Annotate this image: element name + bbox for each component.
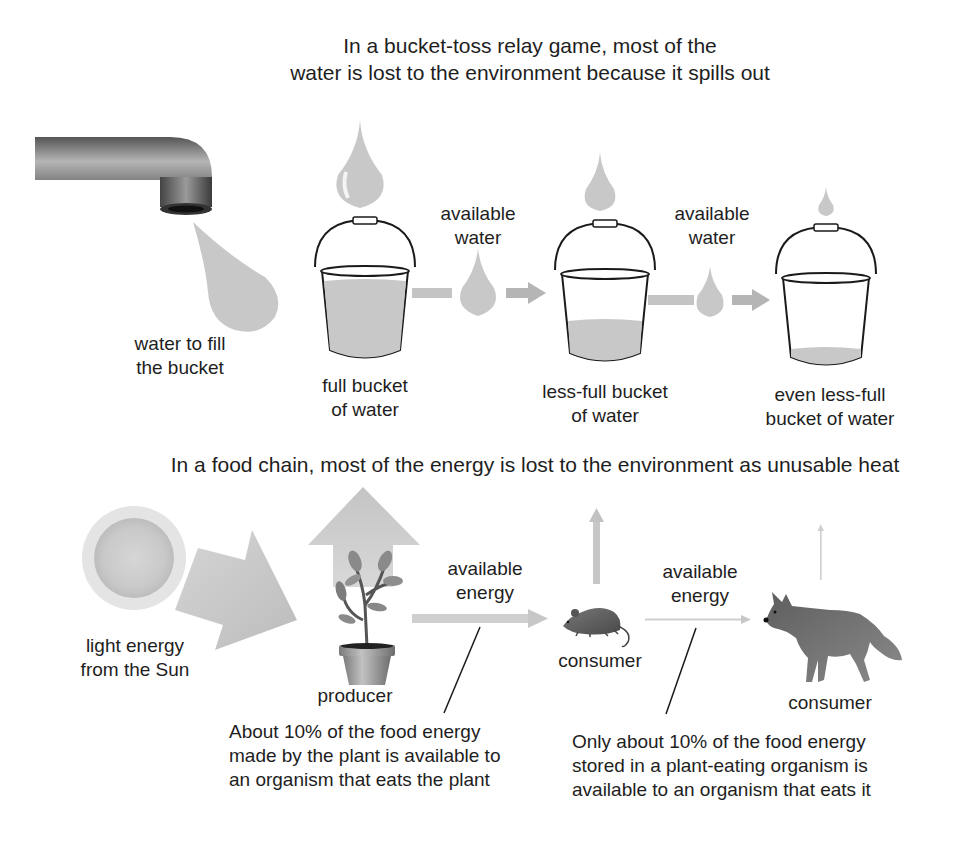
note1-line3: an organism that eats the plant <box>229 768 549 792</box>
transfer-arrow-icon <box>646 265 776 325</box>
transfer2-label-line2: water <box>652 226 772 250</box>
energy-title: In a food chain, most of the energy is l… <box>140 452 930 478</box>
water-title-line2: water is lost to the environment because… <box>260 60 800 86</box>
bucket1-label-line2: of water <box>290 398 440 422</box>
faucet-label-line1: water to fill <box>110 332 250 356</box>
faucet-icon <box>30 125 250 225</box>
consumer2-label: consumer <box>775 691 885 715</box>
pointer-line <box>664 626 704 716</box>
energy-transfer-arrow-icon <box>412 609 552 629</box>
energy-transfer2-label-line1: available <box>645 560 755 584</box>
water-drop-icon <box>330 120 390 210</box>
bucket3-label-line2: bucket of water <box>745 407 915 431</box>
full-bucket-icon <box>310 215 420 375</box>
transfer2-label-line1: available <box>652 202 772 226</box>
sun-label-line1: light energy <box>70 634 200 658</box>
bucket3-label-line1: even less-full <box>745 383 915 407</box>
energy-transfer1-label-line2: energy <box>430 581 540 605</box>
energy-transfer-arrow-icon <box>645 614 755 626</box>
water-drop-icon <box>190 222 290 342</box>
bucket2-label-line2: of water <box>515 404 695 428</box>
note1-line2: made by the plant is available to <box>229 744 549 768</box>
heat-loss-arrow-icon <box>815 522 827 582</box>
wolf-icon <box>760 580 910 690</box>
transfer-arrow-icon <box>410 248 550 318</box>
water-drop-icon <box>816 187 836 217</box>
sun-label-line2: from the Sun <box>70 658 200 682</box>
transfer1-label-line2: water <box>418 226 538 250</box>
note2-line2: stored in a plant-eating organism is <box>572 754 912 778</box>
note2-line1: Only about 10% of the food energy <box>572 730 912 754</box>
plant-icon <box>325 535 415 685</box>
less-full-bucket-icon <box>550 218 660 378</box>
pointer-line <box>440 625 480 715</box>
bucket1-label-line1: full bucket <box>290 374 440 398</box>
consumer1-label: consumer <box>545 649 655 673</box>
energy-transfer1-label-line1: available <box>430 557 540 581</box>
transfer1-label-line1: available <box>418 202 538 226</box>
note1-line1: About 10% of the food energy <box>229 720 549 744</box>
water-title-line1: In a bucket-toss relay game, most of the <box>280 33 780 59</box>
even-less-full-bucket-icon <box>771 222 881 382</box>
note2-line3: available to an organism that eats it <box>572 778 912 802</box>
producer-label: producer <box>300 684 410 708</box>
bucket2-label-line1: less-full bucket <box>515 380 695 404</box>
faucet-label-line2: the bucket <box>110 356 250 380</box>
water-drop-icon <box>580 153 620 213</box>
energy-transfer2-label-line2: energy <box>645 584 755 608</box>
mouse-icon <box>560 602 640 652</box>
heat-loss-arrow-icon <box>587 506 607 586</box>
